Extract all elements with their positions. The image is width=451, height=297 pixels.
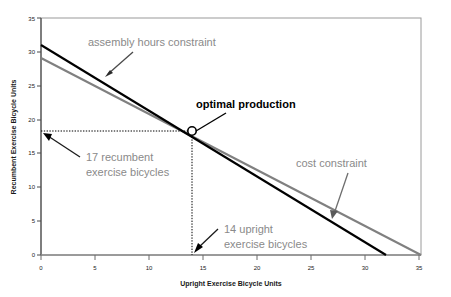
x-tick-label-20: 20 — [254, 265, 261, 271]
annotation-assembly-hours-constraint-label: assembly hours constraint — [88, 36, 216, 48]
chart-page: 0 5 10 15 20 25 30 35 0 5 10 15 20 25 — [0, 0, 451, 297]
x-tick-label-15: 15 — [200, 265, 207, 271]
annotation-upright-label-line2: exercise bicycles — [224, 238, 308, 250]
annotation-cost-constraint-label: cost constraint — [296, 157, 367, 169]
x-tick-label-25: 25 — [308, 265, 315, 271]
y-axis-title: Recumbent Exercise Bicycle Units — [10, 80, 18, 195]
annotation-recumbent-label-line1: 17 recumbent — [86, 151, 153, 163]
x-axis-title: Upright Exercise Bicycle Units — [180, 280, 282, 288]
y-tick-label-10: 10 — [28, 184, 35, 190]
linear-programming-chart: 0 5 10 15 20 25 30 35 0 5 10 15 20 25 — [0, 0, 451, 297]
y-tick-label-15: 15 — [28, 150, 35, 156]
y-tick-label-35: 35 — [28, 16, 35, 22]
x-tick-label-35: 35 — [416, 265, 423, 271]
optimal-production-marker — [188, 127, 196, 135]
annotation-recumbent-label-line2: exercise bicycles — [86, 166, 170, 178]
annotation-optimal-production-label: optimal production — [196, 98, 296, 110]
x-tick-label-30: 30 — [362, 265, 369, 271]
y-tick-label-30: 30 — [28, 49, 35, 55]
x-tick-label-10: 10 — [146, 265, 153, 271]
y-tick-label-20: 20 — [28, 117, 35, 123]
annotation-upright-label-line1: 14 upright — [224, 223, 273, 235]
y-tick-label-25: 25 — [28, 83, 35, 89]
